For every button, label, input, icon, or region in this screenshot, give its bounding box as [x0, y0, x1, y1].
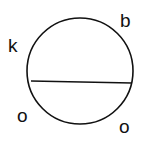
label-b: b [120, 10, 131, 31]
label-o-right: o [119, 116, 130, 137]
diagram-canvas: k b o o [0, 0, 141, 143]
circle [27, 18, 133, 124]
label-o-left: o [17, 105, 28, 126]
chord [31, 81, 132, 83]
label-k: k [8, 35, 18, 56]
